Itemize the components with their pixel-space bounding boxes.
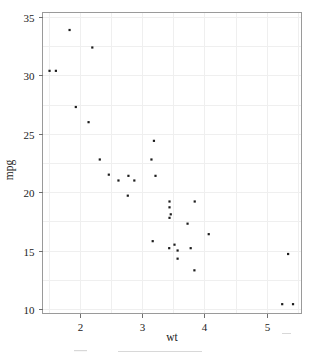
data-point (292, 303, 294, 305)
data-point (153, 140, 155, 142)
data-point (281, 303, 283, 305)
x-tick-label: 2 (78, 321, 84, 333)
data-point (168, 200, 170, 202)
data-point (193, 269, 195, 271)
plot-canvas: 2345 101520253035 wt mpg (0, 0, 316, 358)
data-point (91, 46, 93, 48)
data-point (108, 174, 110, 176)
data-points (48, 29, 294, 305)
data-point (287, 253, 289, 255)
y-axis-title: mpg (3, 160, 16, 181)
data-point (68, 29, 70, 31)
data-point (194, 200, 196, 202)
y-tick-label: 15 (24, 246, 36, 258)
data-point (133, 179, 135, 181)
x-axis-title: wt (166, 331, 178, 343)
data-point (99, 158, 101, 160)
y-tick-label: 25 (24, 129, 36, 141)
data-point (150, 158, 152, 160)
scatter-plot-figure: 2345 101520253035 wt mpg (0, 0, 316, 358)
data-point (177, 258, 179, 260)
data-point (75, 106, 77, 108)
data-point (208, 233, 210, 235)
data-point (168, 217, 170, 219)
data-point (170, 213, 172, 215)
data-point (48, 70, 50, 72)
x-tick-label: 5 (265, 321, 271, 333)
y-tick-label: 20 (24, 187, 36, 199)
data-point (190, 247, 192, 249)
data-point (127, 175, 129, 177)
x-tick-label: 3 (140, 321, 146, 333)
y-tick-label: 30 (24, 70, 36, 82)
grid-lines (43, 13, 302, 314)
y-tick-label: 35 (24, 12, 36, 24)
x-tick-label: 4 (202, 321, 208, 333)
x-axis-ticks: 2345 (78, 314, 271, 333)
data-point (177, 249, 179, 251)
data-point (55, 70, 57, 72)
data-point (152, 240, 154, 242)
data-point (117, 179, 119, 181)
data-point (186, 223, 188, 225)
data-point (168, 206, 170, 208)
data-point (173, 244, 175, 246)
data-point (127, 195, 129, 197)
y-axis-ticks: 101520253035 (24, 12, 43, 316)
data-point (154, 175, 156, 177)
scan-artifacts (74, 333, 291, 352)
data-point (168, 247, 170, 249)
y-tick-label: 10 (24, 304, 36, 316)
data-point (87, 121, 89, 123)
